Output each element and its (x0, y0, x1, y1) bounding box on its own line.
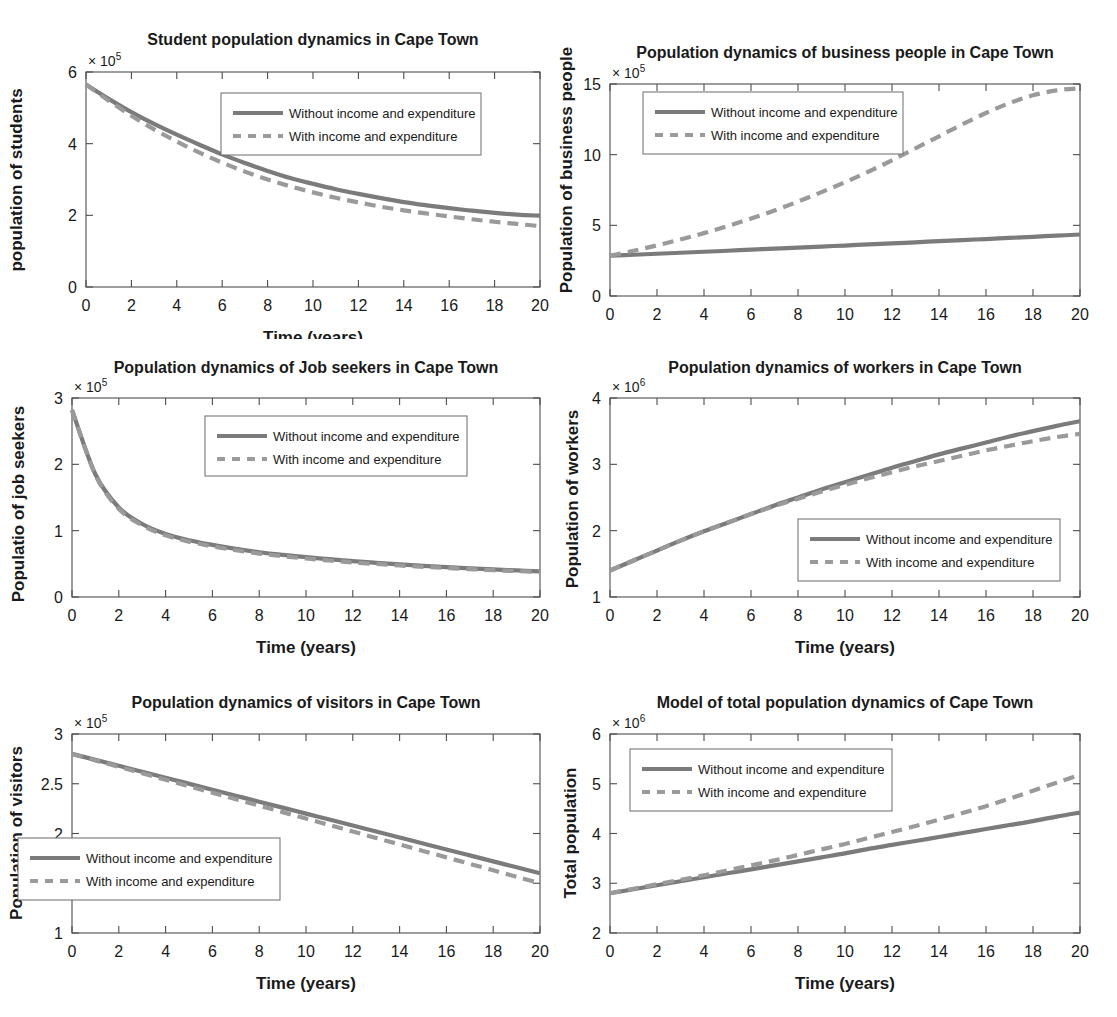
chart-svg-visitors: Population dynamics of visitors in Cape … (0, 678, 558, 1017)
x-tick-label: 18 (1024, 607, 1042, 624)
panel-title: Population dynamics of workers in Cape T… (668, 359, 1022, 376)
y-axis-label: Population of business people (558, 47, 576, 294)
chart-panel-total-population: Model of total population dynamics of Ca… (558, 678, 1117, 1017)
x-tick-label: 12 (883, 607, 901, 624)
x-tick-label: 20 (1071, 607, 1089, 624)
legend[interactable]: Without income and expenditureWith incom… (798, 519, 1060, 581)
chart-svg-job-seekers: Population dynamics of Job seekers in Ca… (0, 339, 558, 678)
chart-panel-students: Student population dynamics in Cape Town… (0, 0, 558, 339)
x-axis-label: Time (years) (795, 638, 895, 657)
legend[interactable]: Without income and expenditureWith incom… (630, 749, 892, 811)
legend-entry-without-label: Without income and expenditure (273, 429, 459, 444)
x-tick-label: 4 (700, 943, 709, 960)
legend[interactable]: Without income and expenditureWith incom… (205, 416, 467, 476)
chart-svg-workers: Population dynamics of workers in Cape T… (558, 339, 1117, 678)
x-tick-label: 20 (1071, 306, 1089, 323)
x-tick-label: 8 (255, 607, 264, 624)
x-tick-label: 0 (606, 607, 615, 624)
y-tick-label: 1 (54, 523, 63, 540)
x-tick-label: 8 (263, 297, 272, 314)
x-tick-label: 18 (1024, 306, 1042, 323)
y-tick-label: 4 (592, 390, 601, 407)
y-tick-label: 2 (592, 925, 601, 942)
x-tick-label: 2 (653, 943, 662, 960)
series-line-without (610, 813, 1080, 894)
y-tick-label: 3 (592, 875, 601, 892)
legend-entry-without-label: Without income and expenditure (86, 851, 272, 866)
axis-exponent: × 105 (88, 51, 122, 69)
x-tick-label: 6 (208, 943, 217, 960)
y-tick-label: 6 (592, 726, 601, 743)
x-tick-label: 4 (700, 607, 709, 624)
panel-title: Model of total population dynamics of Ca… (657, 694, 1034, 711)
x-tick-label: 14 (395, 297, 413, 314)
chart-svg-business-people: Population dynamics of business people i… (558, 0, 1117, 339)
x-tick-label: 14 (930, 943, 948, 960)
y-tick-label: 2 (68, 207, 77, 224)
y-tick-label: 2.5 (41, 776, 63, 793)
x-tick-label: 10 (836, 607, 854, 624)
x-tick-label: 0 (606, 943, 615, 960)
x-tick-label: 10 (836, 306, 854, 323)
y-tick-label: 1 (592, 589, 601, 606)
x-tick-label: 8 (794, 943, 803, 960)
x-tick-label: 8 (794, 306, 803, 323)
x-tick-label: 10 (297, 943, 315, 960)
y-tick-label: 0 (592, 288, 601, 305)
y-tick-label: 2 (54, 456, 63, 473)
y-tick-label: 2 (592, 523, 601, 540)
x-tick-label: 20 (531, 607, 549, 624)
x-tick-label: 6 (747, 306, 756, 323)
x-tick-label: 20 (531, 943, 549, 960)
y-tick-label: 10 (583, 147, 601, 164)
y-axis-label: Total population (561, 768, 580, 899)
legend[interactable]: Without income and expenditureWith incom… (221, 93, 481, 155)
x-tick-label: 18 (484, 943, 502, 960)
x-tick-label: 0 (68, 607, 77, 624)
y-tick-label: 5 (592, 217, 601, 234)
x-tick-label: 20 (1071, 943, 1089, 960)
y-tick-label: 1 (54, 925, 63, 942)
x-tick-label: 4 (700, 306, 709, 323)
x-tick-label: 10 (297, 607, 315, 624)
x-tick-label: 18 (484, 607, 502, 624)
y-tick-label: 0 (54, 589, 63, 606)
x-tick-label: 6 (747, 943, 756, 960)
legend-entry-without-label: Without income and expenditure (698, 762, 884, 777)
x-tick-label: 8 (794, 607, 803, 624)
y-tick-label: 3 (592, 456, 601, 473)
legend-entry-with-label: With income and expenditure (86, 874, 254, 889)
y-axis-label: Populatio of job seekers (9, 406, 28, 603)
axis-exponent: × 105 (74, 713, 108, 731)
legend[interactable]: Without income and expenditureWith incom… (643, 92, 903, 154)
y-tick-label: 3 (54, 390, 63, 407)
x-tick-label: 6 (208, 607, 217, 624)
x-axis-label: Time (years) (263, 328, 363, 339)
x-tick-label: 2 (127, 297, 136, 314)
chart-svg-total-population: Model of total population dynamics of Ca… (558, 678, 1117, 1017)
legend-entry-with-label: With income and expenditure (289, 129, 457, 144)
x-tick-label: 18 (1024, 943, 1042, 960)
y-tick-label: 6 (68, 64, 77, 81)
y-axis-label: population of students (7, 88, 26, 271)
x-tick-label: 6 (747, 607, 756, 624)
x-tick-label: 8 (255, 943, 264, 960)
x-tick-label: 14 (391, 607, 409, 624)
x-tick-label: 14 (391, 943, 409, 960)
x-tick-label: 20 (531, 297, 549, 314)
legend-entry-with-label: With income and expenditure (711, 128, 879, 143)
legend[interactable]: Without income and expenditureWith incom… (18, 838, 280, 900)
x-tick-label: 16 (438, 943, 456, 960)
x-axis-label: Time (years) (795, 974, 895, 993)
x-tick-label: 12 (344, 943, 362, 960)
axis-exponent: × 106 (612, 377, 646, 395)
panel-title: Student population dynamics in Cape Town (147, 31, 478, 48)
legend-entry-without-label: Without income and expenditure (866, 532, 1052, 547)
x-tick-label: 2 (114, 943, 123, 960)
chart-svg-students: Student population dynamics in Cape Town… (0, 0, 558, 339)
panel-title: Population dynamics of business people i… (636, 44, 1054, 61)
legend-entry-with-label: With income and expenditure (866, 555, 1034, 570)
y-axis-label: Population of workers (563, 410, 582, 589)
x-tick-label: 12 (350, 297, 368, 314)
x-tick-label: 12 (883, 306, 901, 323)
